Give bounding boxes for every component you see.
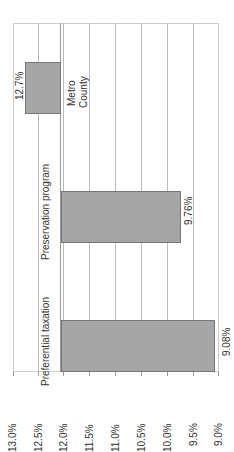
tick-label: 13.0% — [7, 424, 18, 452]
tick-label: 12.0% — [58, 424, 69, 452]
tick — [89, 372, 90, 376]
bar-preferential-taxation — [61, 320, 215, 372]
value-label-preservation: 9.76% — [183, 197, 194, 225]
value-label-preferential: 9.08% — [221, 328, 232, 356]
tick-label: 12.5% — [33, 424, 44, 452]
bar-metro-county — [25, 62, 61, 114]
tick — [38, 372, 39, 376]
value-label-metro: 12.7% — [14, 72, 25, 100]
tick — [13, 372, 14, 376]
tick-label: 11.0% — [110, 424, 121, 452]
tick-label: 10.0% — [162, 424, 173, 452]
category-label-preferential: Preferential taxation — [40, 297, 51, 386]
bar-preservation-program — [61, 191, 181, 243]
tick-label: 9.0% — [213, 423, 224, 446]
tick-label: 11.5% — [84, 424, 95, 452]
category-label-metro: Metro — [66, 80, 77, 106]
category-label-county: County — [78, 76, 89, 108]
tick-label: 9.5% — [188, 423, 199, 446]
tick — [115, 372, 116, 376]
tick — [141, 372, 142, 376]
category-label-preservation: Preservation program — [40, 164, 51, 260]
tick — [167, 372, 168, 376]
tick — [193, 372, 194, 376]
tick — [63, 372, 64, 376]
tick-label: 10.5% — [136, 424, 147, 452]
tick — [218, 372, 219, 376]
